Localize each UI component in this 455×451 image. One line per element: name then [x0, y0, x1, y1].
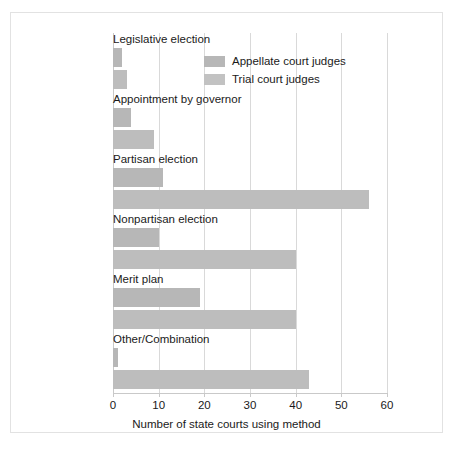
tick-mark-30 — [250, 393, 251, 397]
tick-label-20: 20 — [198, 399, 211, 411]
bar-appellate — [113, 168, 163, 187]
bar-trial — [113, 190, 369, 209]
bar-trial — [113, 130, 154, 149]
bar-group: Partisan election — [113, 153, 447, 213]
tick-mark-40 — [296, 393, 297, 397]
bar-appellate — [113, 48, 122, 67]
tick-label-60: 60 — [381, 399, 394, 411]
legend-item-trial: Trial court judges — [204, 71, 346, 87]
tick-label-30: 30 — [244, 399, 257, 411]
bar-appellate — [113, 288, 200, 307]
bar-group: Other/Combination — [113, 333, 447, 393]
legend-item-appellate: Appellate court judges — [204, 53, 346, 69]
tick-label-50: 50 — [335, 399, 348, 411]
bar-trial — [113, 370, 309, 389]
category-label: Merit plan — [113, 273, 164, 286]
category-label: Partisan election — [113, 153, 198, 166]
category-label: Other/Combination — [113, 333, 210, 346]
tick-mark-60 — [387, 393, 388, 397]
bar-appellate — [113, 108, 131, 127]
bar-trial — [113, 70, 127, 89]
category-label: Nonpartisan election — [113, 213, 218, 226]
tick-label-10: 10 — [152, 399, 165, 411]
bar-appellate — [113, 348, 118, 367]
tick-label-40: 40 — [289, 399, 302, 411]
bar-trial — [113, 250, 296, 269]
legend-swatch-appellate — [204, 56, 225, 67]
bar-appellate — [113, 228, 159, 247]
tick-mark-0 — [113, 393, 114, 397]
tick-mark-50 — [341, 393, 342, 397]
category-label: Appointment by governor — [113, 93, 242, 106]
bar-group: Appointment by governor — [113, 93, 447, 153]
bar-trial — [113, 310, 296, 329]
tick-mark-10 — [159, 393, 160, 397]
legend-label-trial: Trial court judges — [232, 73, 320, 85]
chart-legend: Appellate court judges Trial court judge… — [204, 53, 346, 89]
x-axis-title: Number of state courts using method — [11, 418, 442, 430]
tick-label-0: 0 — [110, 399, 116, 411]
legend-label-appellate: Appellate court judges — [232, 55, 346, 67]
bar-group: Nonpartisan election — [113, 213, 447, 273]
category-label: Legislative election — [113, 33, 210, 46]
bar-group: Merit plan — [113, 273, 447, 333]
legend-swatch-trial — [204, 74, 225, 85]
chart-figure: Legislative electionAppointment by gover… — [10, 12, 443, 433]
tick-mark-20 — [204, 393, 205, 397]
